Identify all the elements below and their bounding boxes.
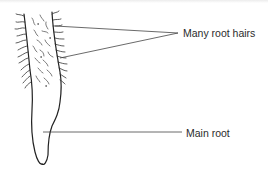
root-hairs-label: Many root hairs <box>183 27 255 39</box>
main-root-outline <box>24 12 61 165</box>
leader-line-root-hairs-upper <box>55 26 178 33</box>
main-root-label: Main root <box>186 127 230 139</box>
leader-line-root-hairs-lower <box>60 33 178 58</box>
root-hairs-right-icon <box>52 11 67 84</box>
root-hairs-inner-icon <box>32 15 53 86</box>
leader-lines <box>43 26 182 132</box>
